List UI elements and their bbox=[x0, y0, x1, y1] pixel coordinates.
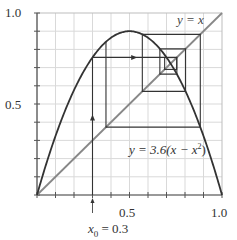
curve-label-prefix: y = 3.6(x − x bbox=[129, 142, 197, 157]
identity-label: y = x bbox=[177, 12, 204, 28]
y-tick-1: 1.0 bbox=[5, 5, 21, 21]
cobweb-polyline bbox=[93, 34, 201, 195]
x0-label: x0 = 0.3 bbox=[88, 221, 128, 239]
arrow-up-icon bbox=[90, 115, 95, 121]
cobweb-chart bbox=[0, 0, 237, 240]
y-tick-0-5: 0.5 bbox=[5, 97, 21, 113]
curve-label: y = 3.6(x − x2) bbox=[129, 142, 206, 158]
x-tick-1: 1.0 bbox=[211, 205, 227, 221]
x-tick-0-5: 0.5 bbox=[119, 205, 135, 221]
x0-value: = 0.3 bbox=[98, 221, 128, 236]
curve-label-suffix: ) bbox=[201, 142, 205, 157]
cobweb-path bbox=[93, 34, 201, 195]
x0-pointer-arrow-icon bbox=[91, 198, 95, 203]
arrow-icons bbox=[90, 55, 137, 213]
arrow-right-icon bbox=[131, 55, 137, 60]
